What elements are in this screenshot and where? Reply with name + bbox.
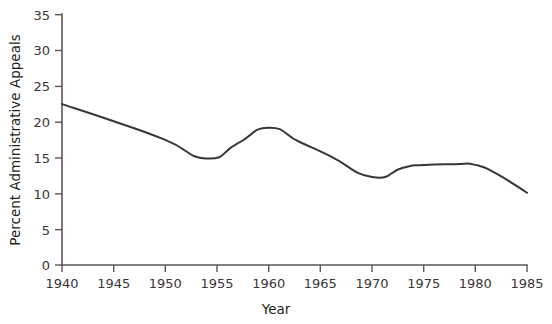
- x-tick-label: 1940: [45, 276, 78, 291]
- x-tick-label: 1985: [510, 276, 543, 291]
- x-tick-label: 1975: [407, 276, 440, 291]
- y-tick-label: 35: [33, 8, 50, 23]
- y-tick-label: 15: [33, 151, 50, 166]
- x-axis-ticks: [62, 265, 527, 272]
- x-tick-label: 1965: [304, 276, 337, 291]
- x-tick-label: 1950: [149, 276, 182, 291]
- x-tick-label: 1970: [355, 276, 388, 291]
- y-tick-label: 25: [33, 79, 50, 94]
- x-tick-label: 1960: [252, 276, 285, 291]
- y-tick-label: 10: [33, 187, 50, 202]
- data-series-line: [62, 104, 527, 193]
- y-axis-tick-labels: 35 30 25 20 15 10 5 0: [33, 8, 50, 273]
- y-tick-label: 20: [33, 115, 50, 130]
- y-axis-title: Percent Administrative Appeals: [7, 34, 23, 245]
- line-chart-figure: 35 30 25 20 15 10 5 0 1940 1945 1950: [0, 0, 552, 324]
- y-axis-ticks: [55, 15, 62, 265]
- chart-plot-area: 35 30 25 20 15 10 5 0 1940 1945 1950: [0, 0, 552, 324]
- y-tick-label: 0: [42, 258, 50, 273]
- x-tick-label: 1980: [459, 276, 492, 291]
- x-axis-tick-labels: 1940 1945 1950 1955 1960 1965 1970 1975 …: [45, 276, 543, 291]
- x-tick-label: 1945: [97, 276, 130, 291]
- y-tick-label: 30: [33, 43, 50, 58]
- y-tick-label: 5: [42, 223, 50, 238]
- x-axis-title: Year: [261, 301, 291, 317]
- x-tick-label: 1955: [200, 276, 233, 291]
